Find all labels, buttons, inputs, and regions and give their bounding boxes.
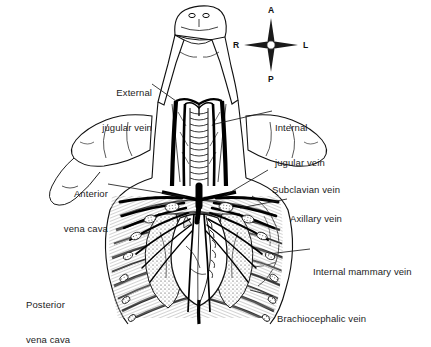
label-anterior-vena-cava-line2: vena cava [0, 223, 108, 235]
compass-label-right: R [233, 41, 239, 50]
label-posterior-vena-cava-line1: Posterior [26, 299, 70, 311]
head-outline [158, 6, 238, 105]
label-anterior-vena-cava-line1: Anterior [0, 188, 108, 200]
label-axillary-vein-line1: Axillary vein [290, 213, 342, 225]
neck-region [152, 99, 246, 186]
thorax [105, 178, 292, 324]
trachea [190, 108, 208, 186]
label-anterior-vena-cava: Anterior vena cava [0, 165, 114, 257]
label-brachiocephalic-vein-line1: Brachiocephalic vein [277, 313, 366, 325]
label-external-jugular-vein-line2: jugular vein [0, 122, 152, 134]
label-posterior-vena-cava-line2: vena cava [26, 334, 70, 346]
label-external-jugular-vein: External jugular vein [0, 64, 158, 156]
orientation-compass [244, 18, 298, 72]
label-internal-jugular-vein-line1: Internal [275, 122, 325, 134]
label-axillary-vein: Axillary vein [290, 190, 342, 248]
compass-label-left: L [303, 41, 308, 50]
compass-label-anterior: A [268, 6, 274, 15]
label-posterior-vena-cava: Posterior vena cava [26, 276, 70, 347]
label-internal-mammary-vein-line1: Internal mammary vein [313, 266, 412, 278]
label-external-jugular-vein-line1: External [0, 87, 152, 99]
leader-anterior-vena-cava [108, 184, 186, 197]
compass-label-posterior: P [268, 75, 274, 84]
label-brachiocephalic-vein: Brachiocephalic vein [277, 290, 366, 347]
